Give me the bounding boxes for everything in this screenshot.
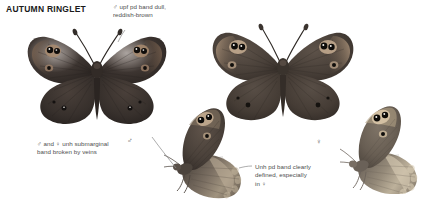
callout-upf-band: ♂ upf pd band dull, reddish-brown bbox=[113, 3, 166, 20]
abdomen bbox=[280, 75, 286, 117]
page-title: AUTUMN RINGLET bbox=[6, 4, 86, 14]
abdomen bbox=[94, 78, 100, 120]
right-hindwing bbox=[98, 74, 153, 124]
specimen-male-upperside bbox=[24, 22, 170, 130]
left-hindwing bbox=[40, 74, 95, 124]
sex-mark-male-underside: ♂ bbox=[127, 137, 133, 145]
head bbox=[349, 161, 357, 168]
right-hindwing bbox=[284, 71, 339, 120]
sex-mark-female-underside: ♀ bbox=[316, 138, 322, 146]
callout-unh-submarginal: ♂ and ♀ unh submarginal band broken by v… bbox=[37, 140, 109, 157]
specimen-female-underside bbox=[340, 104, 432, 194]
callout-unh-pd-band: Unh pd band clearly defined, especially … bbox=[255, 163, 311, 188]
butterfly-plate: AUTUMN RINGLET bbox=[0, 0, 436, 199]
head bbox=[173, 164, 181, 171]
specimen-male-underside bbox=[163, 103, 255, 199]
